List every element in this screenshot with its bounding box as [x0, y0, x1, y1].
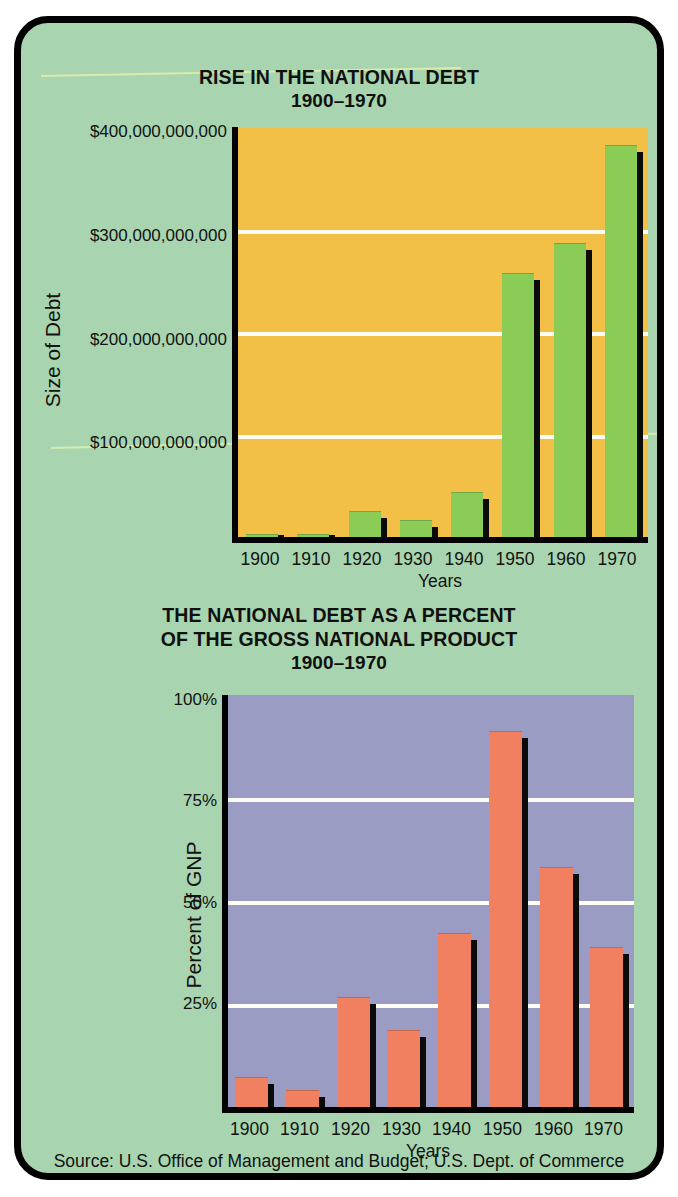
bar-1910 [286, 1091, 319, 1107]
bar-1900 [235, 1078, 268, 1107]
chart2-xtick-1940: 1940 [426, 1119, 477, 1139]
bar-1960 [540, 868, 573, 1107]
bar-body [235, 1077, 268, 1107]
bar-body [590, 947, 623, 1107]
chart2-title-line1: THE NATIONAL DEBT AS A PERCENT [21, 603, 657, 627]
bar-body [540, 867, 573, 1107]
chart1-ytick-100b: $100,000,000,000 [21, 434, 227, 451]
chart2-ytick-100: 100% [21, 691, 217, 708]
bar-1960 [554, 244, 586, 537]
chart1-xtick-1900: 1900 [234, 549, 286, 569]
chart1-plot-area [232, 127, 648, 543]
chart2-title-line2: OF THE GROSS NATIONAL PRODUCT [21, 627, 657, 651]
chart2-y-axis-title: Percent of GNP [182, 820, 206, 1010]
chart2-xtick-1910: 1910 [274, 1119, 325, 1139]
bar-shadow [623, 954, 629, 1107]
chart1-xtick-1930: 1930 [387, 549, 439, 569]
bar-shadow [370, 1004, 376, 1107]
chart1-ytick-200b: $200,000,000,000 [21, 331, 227, 348]
bar-shadow [534, 280, 540, 537]
bar-body [554, 243, 586, 537]
chart2-plot-area [222, 695, 634, 1113]
bar-shadow [586, 250, 592, 537]
bar-shadow [420, 1037, 426, 1107]
bar-body [605, 145, 637, 537]
chart1-title-main: RISE IN THE NATIONAL DEBT [21, 65, 657, 89]
bar-1970 [605, 146, 637, 537]
chart1-ytick-300b: $300,000,000,000 [21, 227, 227, 244]
gridline [228, 798, 634, 802]
bar-shadow [573, 874, 579, 1107]
chart1-title: RISE IN THE NATIONAL DEBT 1900–1970 [21, 65, 657, 113]
bar-shadow [329, 535, 335, 537]
infographic-poster: RISE IN THE NATIONAL DEBT 1900–1970 Size… [14, 16, 664, 1180]
bar-body [400, 520, 432, 537]
chart1-title-subtitle: 1900–1970 [21, 89, 657, 113]
bar-body [438, 933, 471, 1107]
chart2-xtick-1920: 1920 [325, 1119, 376, 1139]
bar-1950 [489, 732, 522, 1107]
bar-1920 [349, 512, 381, 537]
bar-body [246, 534, 278, 537]
bar-1940 [451, 493, 483, 537]
gridline [238, 230, 648, 234]
bar-shadow [471, 940, 477, 1107]
chart1-xtick-1960: 1960 [540, 549, 592, 569]
bar-body [451, 492, 483, 537]
chart2-xtick-1900: 1900 [224, 1119, 275, 1139]
bar-body [387, 1030, 420, 1107]
bar-1940 [438, 934, 471, 1107]
bar-shadow [522, 738, 528, 1107]
chart2-xtick-1970: 1970 [578, 1119, 629, 1139]
chart2-xtick-1950: 1950 [477, 1119, 528, 1139]
bar-body [337, 997, 370, 1107]
chart1-ytick-400b: $400,000,000,000 [21, 123, 227, 140]
bar-shadow [483, 499, 489, 537]
bar-shadow [278, 535, 284, 537]
bar-shadow [268, 1084, 274, 1107]
bar-body [502, 273, 534, 537]
bar-1970 [590, 948, 623, 1107]
chart2-title-subtitle: 1900–1970 [21, 651, 657, 675]
chart2-xtick-1930: 1930 [376, 1119, 427, 1139]
bar-1930 [400, 521, 432, 537]
chart1-xtick-1920: 1920 [336, 549, 388, 569]
bar-1900 [246, 535, 278, 537]
bar-shadow [637, 152, 643, 537]
chart2-ytick-75: 75% [21, 792, 217, 809]
bar-shadow [319, 1097, 325, 1107]
chart2-ytick-50: 50% [21, 894, 217, 911]
chart2-title: THE NATIONAL DEBT AS A PERCENT OF THE GR… [21, 603, 657, 675]
chart1-y-axis-title: Size of Debt [41, 280, 65, 420]
bar-1930 [387, 1031, 420, 1107]
bar-body [286, 1090, 319, 1107]
chart2-ytick-25: 25% [21, 995, 217, 1012]
chart1-xtick-1950: 1950 [489, 549, 541, 569]
chart2-xtick-1960: 1960 [528, 1119, 579, 1139]
bar-body [297, 534, 329, 537]
bar-shadow [432, 527, 438, 537]
chart1-plot-inner [238, 127, 648, 537]
bar-shadow [381, 518, 387, 537]
source-note: Source: U.S. Office of Management and Bu… [21, 1151, 657, 1171]
chart1-xtick-1940: 1940 [438, 549, 490, 569]
bar-body [349, 511, 381, 537]
bar-1920 [337, 998, 370, 1107]
chart1-xtick-1970: 1970 [591, 549, 643, 569]
chart2-plot-inner [228, 695, 634, 1107]
bar-1950 [502, 274, 534, 537]
bar-1910 [297, 535, 329, 537]
chart1-x-axis-title: Years [232, 571, 648, 591]
bar-body [489, 731, 522, 1107]
chart1-xtick-1910: 1910 [285, 549, 337, 569]
